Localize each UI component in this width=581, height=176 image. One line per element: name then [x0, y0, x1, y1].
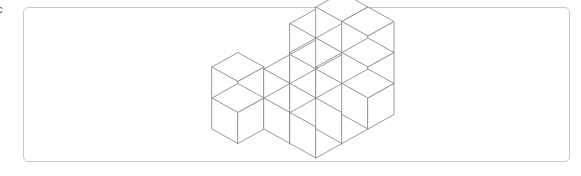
figure-frame: [23, 7, 570, 162]
screenshot-root: c Stack of unit cubes arranged as a risi…: [0, 0, 581, 176]
edge-text-fragment: c: [0, 3, 4, 16]
